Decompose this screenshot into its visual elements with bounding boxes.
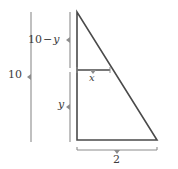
geometry-diagram-canvas: 10 10−y y x 2 bbox=[0, 0, 178, 169]
base-width-label: 2 bbox=[113, 154, 120, 165]
total-height-label: 10 bbox=[8, 69, 22, 80]
figure-svg bbox=[0, 0, 178, 169]
lower-height-label: y bbox=[58, 99, 64, 110]
upper-height-brace bbox=[66, 12, 70, 68]
upper-height-value: 10 bbox=[28, 33, 42, 46]
upper-height-variable: y bbox=[53, 33, 59, 46]
upper-height-label: 10−y bbox=[28, 34, 59, 45]
lower-height-brace bbox=[66, 72, 70, 142]
total-height-brace bbox=[27, 12, 31, 142]
minus-sign: − bbox=[42, 33, 53, 46]
inner-segment-label: x bbox=[89, 73, 95, 83]
